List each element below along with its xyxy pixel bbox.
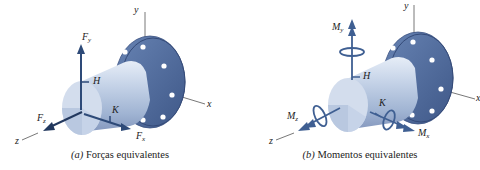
caption-b: (b) Momentos equivalentes bbox=[240, 149, 480, 160]
z-axis-label: z bbox=[15, 136, 19, 146]
panel-equivalent-moments: y x z H K My Mz Mx (b) Momentos equivale… bbox=[240, 0, 480, 170]
point-h-label: H bbox=[363, 71, 370, 81]
fy-label: Fy bbox=[82, 32, 91, 44]
x-axis-label: x bbox=[476, 93, 480, 103]
end-face-shading bbox=[62, 108, 82, 135]
fz-label: Fz bbox=[37, 113, 46, 125]
x-axis-line bbox=[450, 92, 475, 99]
mx-label: Mx bbox=[418, 128, 429, 140]
point-k-label: K bbox=[112, 105, 119, 115]
y-axis-label: y bbox=[134, 5, 138, 15]
mx-arrow-head-2 bbox=[396, 121, 408, 129]
mz-label: Mz bbox=[287, 111, 298, 123]
y-axis-label: y bbox=[404, 1, 408, 11]
point-k-label: K bbox=[379, 98, 386, 108]
caption-a: (a) Forças equivalentes bbox=[0, 149, 240, 160]
my-label: My bbox=[332, 22, 343, 34]
pipe-forces-diagram bbox=[0, 0, 240, 170]
z-axis-line bbox=[276, 133, 294, 140]
z-axis-label: z bbox=[269, 136, 273, 146]
fx-label: Fx bbox=[136, 131, 145, 143]
fy-arrow-head bbox=[77, 44, 85, 54]
x-axis-line bbox=[182, 97, 205, 104]
pipe-moments-diagram bbox=[240, 0, 480, 170]
point-h-label: H bbox=[93, 76, 100, 86]
x-axis-label: x bbox=[207, 99, 211, 109]
panel-equivalent-forces: y x z H K Fy Fz Fx (a) Forças equivalent… bbox=[0, 0, 240, 170]
z-axis-line bbox=[22, 133, 38, 140]
